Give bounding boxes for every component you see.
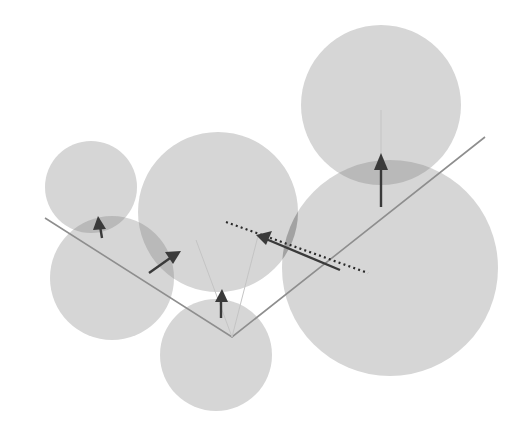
circle-bottom [160,299,272,411]
circle-overlap-diagram [0,0,512,422]
circle-lower-right-large [282,160,498,376]
